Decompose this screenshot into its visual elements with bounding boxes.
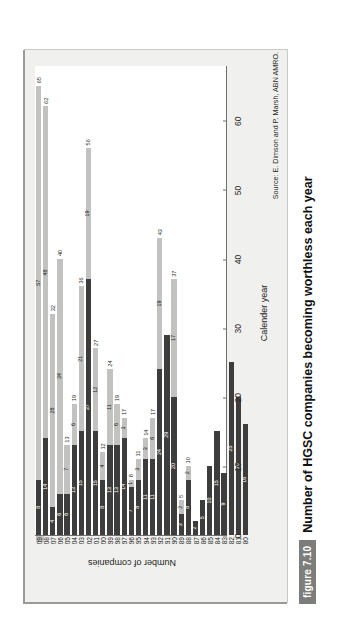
- bar-total-label: 10: [185, 457, 191, 466]
- bar-segment-value: 21: [79, 356, 84, 362]
- figure-number-badge: figure 7.10: [299, 540, 316, 604]
- bar-segment-value: 8: [36, 506, 41, 509]
- bar-row: 11617: [150, 65, 155, 535]
- bar-segment-hgsc-index: 24: [157, 369, 162, 535]
- x-axis-tick-label: 87: [192, 537, 199, 555]
- y-axis-tick: [223, 121, 227, 122]
- bar-total-label: 12: [100, 443, 106, 452]
- x-axis-tick-label: 00: [99, 537, 106, 555]
- bar-segment-value: 4: [50, 520, 55, 523]
- bar-segment-hgsc-index: 29: [164, 335, 169, 535]
- bar-segment-value: 8: [186, 506, 191, 509]
- bar-segment-hgsc-index: 2: [193, 521, 198, 535]
- bar-segment-value: 14: [43, 484, 48, 490]
- bar-segment-hgsc-plus-usm-aim: 19: [86, 148, 91, 279]
- bar-segment-value: 15: [214, 480, 219, 486]
- bar-segment-hgsc-plus-usm-aim: 11: [107, 369, 112, 445]
- bar-row: 8311: [136, 65, 141, 535]
- bar-segment-hgsc-index: 4: [50, 507, 55, 535]
- bar-row: 15: [214, 65, 219, 535]
- x-axis-tick-label: 97: [121, 537, 128, 555]
- bar-total-label: 36: [78, 277, 84, 286]
- bar-row: 131124: [107, 65, 112, 535]
- bar-row: 151227: [93, 65, 98, 535]
- bar-segment-value: 2: [186, 471, 191, 474]
- bar-segment-hgsc-index: 10: [207, 466, 212, 535]
- bar-row: 201737: [171, 65, 176, 535]
- bar-row: 152136: [79, 65, 84, 535]
- bar-segment-value: 13: [107, 487, 112, 493]
- bar-segment-hgsc-plus-usm-aim: 12: [93, 348, 98, 431]
- bar-segment-value: 34: [57, 373, 62, 379]
- x-axis-tick-label: 88: [185, 537, 192, 555]
- bar-segment-hgsc-plus-usm-aim: 7: [64, 445, 69, 493]
- bar-total-label: 65: [36, 77, 42, 86]
- bar-segment-value: 7: [129, 509, 134, 512]
- x-axis-tick-label: 09: [35, 537, 42, 555]
- bar-segment-hgsc-index: 3: [179, 514, 184, 535]
- y-axis-tick-label: 10: [233, 462, 243, 471]
- bar-segment-value: 2: [193, 527, 198, 530]
- y-axis-tick: [223, 190, 227, 191]
- bar-segment-value: 6: [150, 437, 155, 440]
- y-axis-tick: [223, 466, 227, 467]
- page-canvas: HGSC plus USM/AIM stocksHGSC index Numbe…: [0, 0, 352, 623]
- figure-7-10: HGSC plus USM/AIM stocksHGSC index Numbe…: [17, 18, 335, 604]
- x-axis-tick-label: 98: [114, 537, 121, 555]
- y-axis-tick: [223, 328, 227, 329]
- bar-segment-value: 10: [207, 497, 212, 503]
- bar-total-label: 24: [107, 360, 113, 369]
- plot-area: 8016812082258398415851086587288821089325…: [35, 66, 227, 536]
- bar-row: 16: [243, 65, 248, 535]
- bar-segment-value: 28: [50, 408, 55, 414]
- bar-row: 9: [221, 65, 226, 535]
- bar-row: 11314: [143, 65, 148, 535]
- bar-segment-hgsc-index: 9: [221, 473, 226, 535]
- y-axis-tick: [223, 397, 227, 398]
- bar-segment-value: 24: [157, 449, 162, 455]
- x-axis-tick-label: 92: [156, 537, 163, 555]
- x-axis-tick-label: 08: [42, 537, 49, 555]
- bar-segment-value: 16: [243, 477, 248, 483]
- bar-segment-hgsc-plus-usm-aim: 3: [136, 459, 141, 480]
- bar-segment-hgsc-plus-usm-aim: 1: [129, 480, 134, 487]
- bar-row: 8210: [186, 65, 191, 535]
- x-axis-tick-label: 80: [242, 537, 249, 555]
- x-axis-tick-label: 85: [206, 537, 213, 555]
- x-axis-tick-label: 99: [106, 537, 113, 555]
- bar-row: 13619: [72, 65, 77, 535]
- bar-segment-value: 11: [143, 494, 148, 500]
- bar-segment-value: 11: [150, 494, 155, 500]
- bar-segment-value: 13: [72, 487, 77, 493]
- bar-segment-hgsc-index: 13: [114, 445, 119, 535]
- bar-segment-value: 9: [221, 502, 226, 505]
- x-axis-tick-label: 05: [64, 537, 71, 555]
- bar-segment-hgsc-plus-usm-aim: 19: [157, 238, 162, 369]
- bar-segment-value: 15: [93, 480, 98, 486]
- x-axis-tick-label: 83: [221, 537, 228, 555]
- bar-row: 85765: [36, 65, 41, 535]
- bar-segment-hgsc-index: 6: [57, 494, 62, 535]
- bar-total-label: 37: [171, 271, 177, 280]
- x-axis-tick-label: 94: [142, 537, 149, 555]
- bar-segment-value: 11: [107, 404, 112, 410]
- bar-row: 13619: [114, 65, 119, 535]
- x-axis-tick-label: 95: [135, 537, 142, 555]
- bar-total-label: 14: [143, 430, 149, 439]
- source-note: Source: E. Dimson and P. Marsh, ABN AMRO…: [271, 52, 280, 199]
- bar-segment-hgsc-index: 7: [129, 487, 134, 535]
- bar-segment-hgsc-plus-usm-aim: 34: [57, 259, 62, 494]
- bar-row: 63440: [57, 65, 62, 535]
- bar-segment-hgsc-index: 11: [143, 459, 148, 535]
- bar-row: 42832: [50, 65, 55, 535]
- bar-segment-hgsc-index: 13: [107, 445, 112, 535]
- bar-segment-hgsc-index: 14: [122, 438, 127, 535]
- x-axis-tick-label: 89: [178, 537, 185, 555]
- bar-segment-value: 7: [64, 468, 69, 471]
- bar-total-label: 32: [50, 305, 56, 314]
- bar-row: 29: [164, 65, 169, 535]
- bar-row: 6713: [64, 65, 69, 535]
- y-axis-tick: [223, 259, 227, 260]
- bar-row: 8412: [100, 65, 105, 535]
- x-axis-tick-label: 01: [92, 537, 99, 555]
